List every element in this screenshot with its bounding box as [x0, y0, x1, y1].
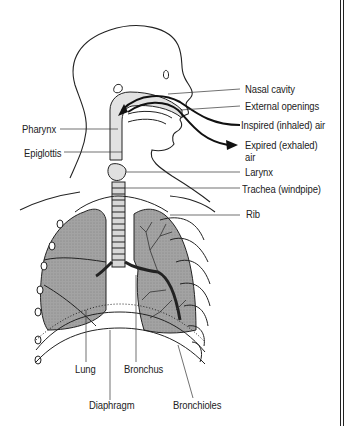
lung-left: [41, 209, 106, 330]
label-bronchioles: Bronchioles: [173, 399, 221, 411]
label-trachea: Trachea (windpipe): [242, 183, 321, 195]
label-external-openings: External openings: [245, 100, 319, 112]
label-bronchus: Bronchus: [124, 363, 163, 375]
label-nasal-cavity: Nasal cavity: [245, 83, 295, 95]
label-rib: Rib: [246, 208, 260, 220]
nostril-icon: [163, 70, 168, 78]
label-expired-air-cont: air: [245, 151, 255, 163]
trachea: [112, 182, 125, 267]
label-expired-air: Expired (exhaled): [245, 139, 318, 151]
expired-air-arrow: [128, 103, 228, 145]
label-inspired-air: Inspired (inhaled) air: [241, 119, 325, 131]
ear-icon: [114, 84, 123, 92]
respiratory-anatomy-illustration: [0, 0, 352, 426]
label-larynx: Larynx: [245, 166, 273, 178]
label-pharynx: Pharynx: [22, 123, 56, 135]
airway-pharynx: [110, 92, 182, 160]
label-epiglottis: Epiglottis: [24, 147, 61, 159]
larynx: [108, 164, 126, 181]
label-diaphragm: Diaphragm: [89, 399, 134, 411]
label-lung: Lung: [75, 363, 96, 375]
